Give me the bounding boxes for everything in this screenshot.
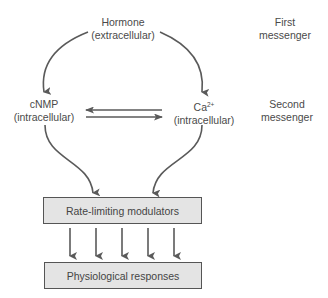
calcium-symbol: Ca xyxy=(194,101,207,113)
hormone-location: (extracellular) xyxy=(73,29,173,42)
rate-limiting-modulators-box: Rate-limiting modulators xyxy=(43,197,202,224)
calcium-charge: 2+ xyxy=(207,101,214,108)
calcium-location: (intracellular) xyxy=(162,114,246,127)
calcium-label: Ca2+ (intracellular) xyxy=(162,98,246,127)
cnmp-location: (intracellular) xyxy=(2,111,86,124)
first-messenger-label: First messenger xyxy=(245,16,325,42)
physiological-responses-box: Physiological responses xyxy=(44,262,202,289)
calcium-name: Ca2+ xyxy=(162,98,246,114)
first-messenger-line1: First xyxy=(245,16,325,29)
hormone-name: Hormone xyxy=(73,16,173,29)
arrows-layer xyxy=(0,0,328,298)
second-messenger-line1: Second xyxy=(247,98,327,111)
cnmp-name: cNMP xyxy=(2,98,86,111)
hormone-label: Hormone (extracellular) xyxy=(73,16,173,42)
arrow-cnmp-to-modulators xyxy=(45,125,93,193)
arrow-calcium-to-modulators xyxy=(153,125,202,193)
first-messenger-line2: messenger xyxy=(245,29,325,42)
second-messenger-label: Second messenger xyxy=(247,98,327,124)
cnmp-label: cNMP (intracellular) xyxy=(2,98,86,124)
second-messenger-line2: messenger xyxy=(247,111,327,124)
